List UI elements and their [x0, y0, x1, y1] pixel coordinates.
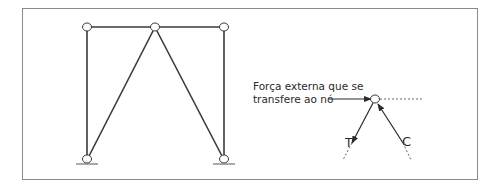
truss-members: [87, 27, 224, 156]
node-icon: [151, 23, 160, 31]
isolated-node-icon: [371, 95, 380, 103]
member-right-diagonal: [157, 31, 222, 156]
support-node-icon: [83, 155, 92, 163]
member-left-diagonal: [89, 31, 153, 156]
external-force-caption: Força externa que se transfere ao nó: [253, 80, 363, 106]
node-icon: [220, 23, 229, 31]
support-node-icon: [220, 155, 229, 163]
tension-arrow-icon: [352, 103, 373, 143]
compression-label: C: [402, 134, 411, 149]
compression-arrow-icon: [378, 104, 403, 143]
truss-diagram: [0, 0, 483, 185]
node-icon: [83, 23, 92, 31]
caption-line-2: transfere ao nó: [253, 93, 363, 106]
truss-nodes: [83, 23, 229, 163]
caption-line-1: Força externa que se: [253, 80, 363, 93]
tension-label: T: [345, 136, 352, 150]
